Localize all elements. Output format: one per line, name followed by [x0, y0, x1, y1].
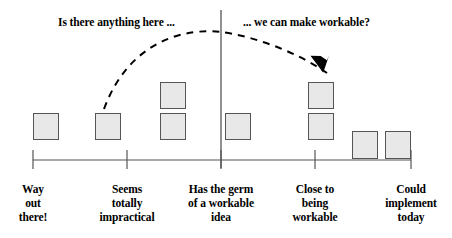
idea-box [308, 113, 334, 140]
axis-tick-label: Couldimplementtoday [385, 182, 436, 225]
axis-tick-label-line: there! [19, 210, 48, 224]
arrowhead-icon [308, 52, 329, 73]
axis-tick-label: Seemstotallyimpractical [99, 182, 154, 225]
axis-tick-label-line: totally [99, 196, 154, 210]
axis-tick-label-line: Way [19, 182, 48, 196]
axis-tick-label-line: Seems [99, 182, 154, 196]
axis-tick-label-line: out [19, 196, 48, 210]
axis-tick-label-line: implement [385, 196, 436, 210]
left-callout-text: Is there anything here ... [58, 16, 175, 28]
axis-tick-label-line: idea [188, 210, 254, 224]
idea-box [385, 131, 411, 159]
axis-tick-label-line: Has the germ [188, 182, 254, 196]
idea-box [308, 82, 334, 109]
axis-tick-label-line: impractical [99, 210, 154, 224]
axis-tick-label: Wayoutthere! [19, 182, 48, 225]
axis-tick-label: Close tobeingworkable [292, 182, 337, 225]
idea-box [95, 113, 121, 140]
axis-tick-label-line: workable [292, 210, 337, 224]
feasibility-diagram: Is there anything here ... ... we can ma… [0, 0, 452, 238]
axis-tick-label-line: Close to [292, 182, 337, 196]
axis-tick-label-line: being [292, 196, 337, 210]
idea-box [225, 113, 251, 140]
idea-box [160, 113, 186, 140]
right-callout-text: ... we can make workable? [243, 16, 370, 28]
dashed-curved-arrow [104, 31, 329, 109]
dashed-arc-path [104, 31, 327, 109]
idea-box [160, 82, 186, 109]
axis-tick-label-line: today [385, 210, 436, 224]
axis-tick-label-line: of a workable [188, 196, 254, 210]
idea-box [352, 131, 378, 159]
axis-tick-label: Has the germof a workableidea [188, 182, 254, 225]
idea-box [33, 113, 59, 140]
axis-tick-label-line: Could [385, 182, 436, 196]
